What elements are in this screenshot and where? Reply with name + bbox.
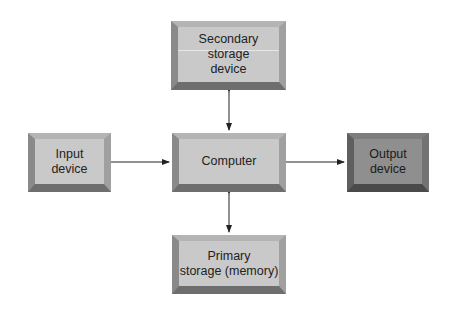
node-label: Computer: [202, 154, 257, 169]
node-label: Input: [51, 147, 87, 162]
node-computer: Computer: [172, 133, 286, 192]
node-secondary-storage: Secondary storage device: [171, 21, 286, 90]
node-primary-storage: Primary storage (memory): [172, 235, 286, 294]
node-output-device: Output device: [347, 133, 429, 192]
node-label: device: [199, 62, 259, 77]
node-label: Primary: [180, 249, 279, 264]
node-input-device: Input device: [28, 133, 111, 192]
node-label: device: [369, 162, 407, 177]
node-label: storage: [199, 47, 259, 62]
node-label: device: [51, 162, 87, 177]
node-label: Secondary: [199, 32, 259, 47]
node-label: Output: [369, 147, 407, 162]
node-label: storage (memory): [180, 264, 279, 279]
